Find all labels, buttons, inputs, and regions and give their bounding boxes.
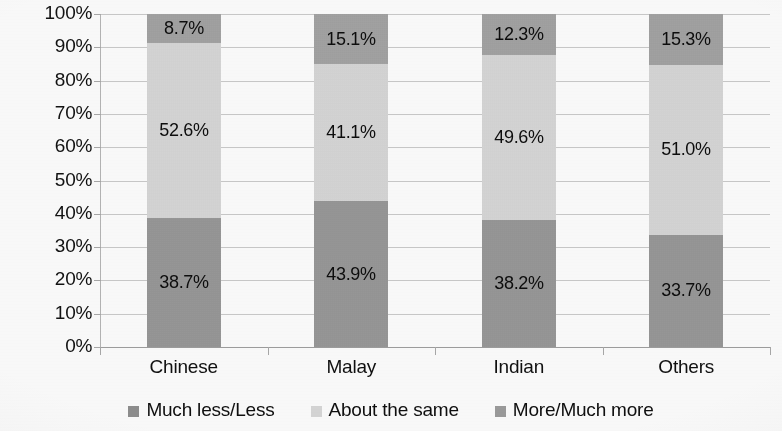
bar-segment[interactable]: 15.3%: [649, 14, 723, 65]
bar-segment-value-label: 49.6%: [494, 127, 544, 148]
x-axis-tick: [435, 347, 436, 355]
bar-segment-value-label: 38.7%: [159, 272, 209, 293]
y-axis-tick: [94, 247, 101, 248]
y-axis-labels: 0%10%20%30%40%50%60%70%80%90%100%: [0, 0, 92, 431]
y-axis-tick: [94, 181, 101, 182]
bar-segment[interactable]: 51.0%: [649, 65, 723, 235]
bar-segment-value-label: 41.1%: [326, 122, 376, 143]
x-axis-category-label: Chinese: [104, 356, 264, 378]
x-axis-tick: [770, 347, 771, 355]
x-axis-tick: [100, 347, 101, 355]
x-axis-tick: [603, 347, 604, 355]
y-axis-tick: [94, 114, 101, 115]
legend-item[interactable]: About the same: [311, 399, 459, 421]
bar-segment[interactable]: 33.7%: [649, 235, 723, 347]
y-axis-tick: [94, 14, 101, 15]
bar-segment[interactable]: 52.6%: [147, 43, 221, 218]
y-axis-tick: [94, 147, 101, 148]
y-axis-tick-label: 60%: [4, 135, 92, 157]
y-axis-tick-label: 30%: [4, 235, 92, 257]
bar-segment-value-label: 15.3%: [661, 29, 711, 50]
y-axis-tick-label: 100%: [4, 2, 92, 24]
bar-segment[interactable]: 49.6%: [482, 55, 556, 220]
legend-swatch-icon: [128, 406, 139, 417]
y-axis-tick-label: 0%: [4, 335, 92, 357]
y-axis-tick: [94, 81, 101, 82]
bar-segment-value-label: 33.7%: [661, 280, 711, 301]
x-axis-tick: [268, 347, 269, 355]
plot-area: 8.7%52.6%38.7%15.1%41.1%43.9%12.3%49.6%3…: [100, 14, 770, 347]
y-axis-tick: [94, 214, 101, 215]
x-axis-category-label: Indian: [439, 356, 599, 378]
y-axis-tick-label: 70%: [4, 102, 92, 124]
bar-segment[interactable]: 15.1%: [314, 14, 388, 64]
y-axis-tick-label: 80%: [4, 69, 92, 91]
legend-label: Much less/Less: [146, 399, 274, 421]
y-axis-tick: [94, 280, 101, 281]
x-axis-category-label: Others: [606, 356, 766, 378]
x-axis-category-label: Malay: [271, 356, 431, 378]
legend-label: About the same: [329, 399, 459, 421]
bar-segment[interactable]: 8.7%: [147, 14, 221, 43]
stacked-bar[interactable]: 15.3%51.0%33.7%: [649, 14, 723, 347]
legend-item[interactable]: Much less/Less: [128, 399, 274, 421]
stacked-bar[interactable]: 8.7%52.6%38.7%: [147, 14, 221, 347]
bar-segment[interactable]: 41.1%: [314, 64, 388, 201]
bar-segment-value-label: 15.1%: [326, 29, 376, 50]
legend-swatch-icon: [495, 406, 506, 417]
bar-segment-value-label: 43.9%: [326, 264, 376, 285]
y-axis-tick-label: 10%: [4, 302, 92, 324]
y-axis-tick: [94, 47, 101, 48]
legend-swatch-icon: [311, 406, 322, 417]
chart-page: 0%10%20%30%40%50%60%70%80%90%100% 8.7%52…: [0, 0, 782, 431]
y-axis-tick-label: 50%: [4, 169, 92, 191]
bar-segment-value-label: 51.0%: [661, 139, 711, 160]
bar-segment[interactable]: 38.2%: [482, 220, 556, 347]
legend-label: More/Much more: [513, 399, 654, 421]
bar-segment-value-label: 52.6%: [159, 120, 209, 141]
bar-segment-value-label: 8.7%: [164, 18, 204, 39]
bar-segment[interactable]: 43.9%: [314, 201, 388, 347]
bar-segment-value-label: 12.3%: [494, 24, 544, 45]
y-axis-tick-label: 90%: [4, 35, 92, 57]
bar-segment[interactable]: 38.7%: [147, 218, 221, 347]
y-axis-tick-label: 20%: [4, 268, 92, 290]
bar-segment[interactable]: 12.3%: [482, 14, 556, 55]
bar-segment-value-label: 38.2%: [494, 273, 544, 294]
y-axis-tick: [94, 347, 101, 348]
chart-legend: Much less/LessAbout the sameMore/Much mo…: [0, 399, 782, 421]
y-axis-tick-label: 40%: [4, 202, 92, 224]
legend-item[interactable]: More/Much more: [495, 399, 654, 421]
y-axis-tick: [94, 314, 101, 315]
stacked-bar[interactable]: 15.1%41.1%43.9%: [314, 14, 388, 347]
stacked-bar[interactable]: 12.3%49.6%38.2%: [482, 14, 556, 347]
